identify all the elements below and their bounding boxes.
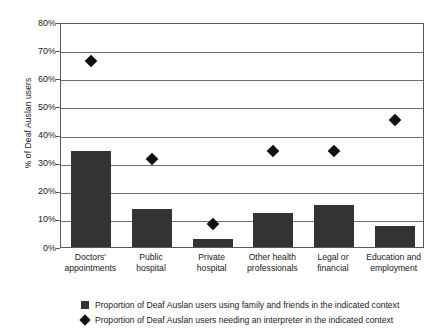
- y-axis-title: % of Deaf Auslan users: [23, 43, 33, 203]
- y-axis-tick-label: 80%: [10, 19, 56, 28]
- y-axis-tick-label: 0%: [10, 244, 56, 253]
- y-axis-tick-label: 50%: [10, 103, 56, 112]
- y-axis-tick-label: 70%: [10, 47, 56, 56]
- legend-square-icon: [78, 298, 92, 312]
- legend-diamond-icon-shape: [79, 314, 90, 325]
- diamond-marker: [328, 144, 341, 157]
- y-axis-tick-label: 60%: [10, 75, 56, 84]
- plot-area: [60, 23, 424, 248]
- diamond-marker: [206, 217, 219, 230]
- legend-diamond-icon: [78, 313, 92, 327]
- gridline: [61, 221, 423, 222]
- gridline: [61, 80, 423, 81]
- diamond-marker: [85, 54, 98, 67]
- y-axis-tick-label: 10%: [10, 215, 56, 224]
- chart-legend: Proportion of Deaf Auslan users using fa…: [0, 297, 437, 327]
- gridline: [61, 52, 423, 53]
- bar: [375, 226, 415, 247]
- x-axis-category-label: Education andemployment: [357, 252, 430, 273]
- diamond-marker: [388, 113, 401, 126]
- bar: [314, 205, 354, 247]
- y-axis-tick-label: 20%: [10, 187, 56, 196]
- legend-item: Proportion of Deaf Auslan users needing …: [0, 312, 437, 327]
- bar: [253, 213, 293, 247]
- legend-item-label: Proportion of Deaf Auslan users using fa…: [95, 300, 399, 310]
- gridline: [61, 137, 423, 138]
- gridline: [61, 165, 423, 166]
- legend-item-label: Proportion of Deaf Auslan users needing …: [95, 315, 393, 325]
- bar: [132, 209, 172, 247]
- bar: [193, 239, 233, 247]
- legend-item: Proportion of Deaf Auslan users using fa…: [0, 297, 437, 312]
- legend-square-icon-shape: [81, 301, 89, 309]
- x-axis-category-label-line: employment: [357, 263, 430, 274]
- gridline: [61, 193, 423, 194]
- y-axis-tick-label: 30%: [10, 159, 56, 168]
- x-axis-category-label-line: Education and: [357, 252, 430, 263]
- y-axis-tick-mark: [56, 248, 60, 249]
- gridline: [61, 108, 423, 109]
- diamond-marker: [146, 153, 159, 166]
- bar: [71, 151, 111, 247]
- diamond-marker: [267, 144, 280, 157]
- y-axis-tick-label: 40%: [10, 131, 56, 140]
- chart-container: % of Deaf Auslan users 80%70%60%50%40%30…: [0, 0, 437, 331]
